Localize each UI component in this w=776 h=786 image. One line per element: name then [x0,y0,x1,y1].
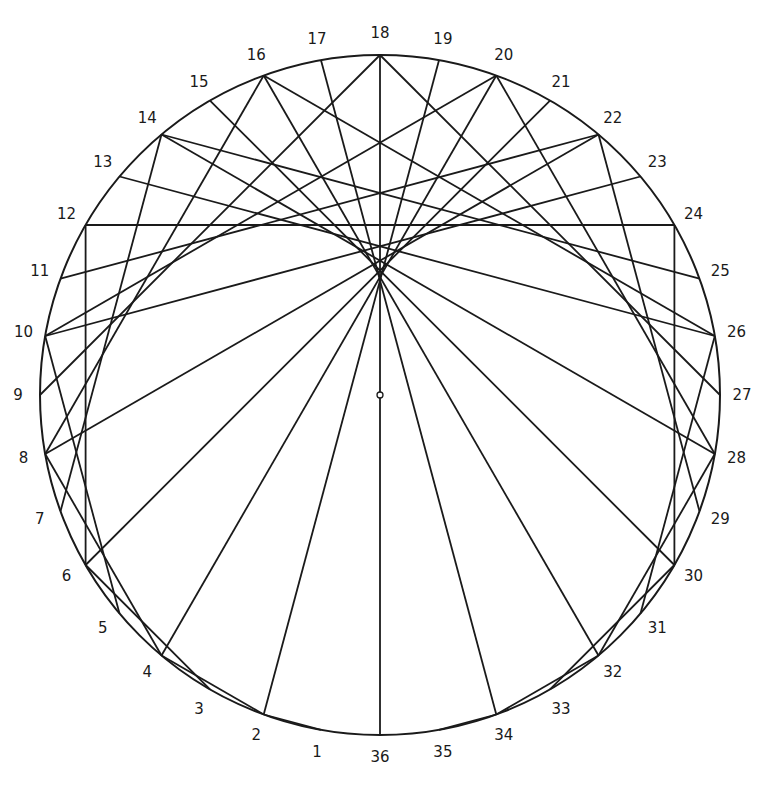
point-label-34: 34 [494,726,513,744]
point-label-9: 9 [13,386,23,404]
point-label-33: 33 [551,700,570,718]
point-label-26: 26 [727,323,746,341]
point-label-27: 27 [732,386,751,404]
point-label-3: 3 [194,700,204,718]
chord-29-22 [599,135,700,512]
point-label-8: 8 [19,449,29,467]
point-label-31: 31 [648,619,667,637]
point-label-21: 21 [551,73,570,91]
point-label-13: 13 [93,153,112,171]
chord-28-20 [496,76,715,455]
point-label-12: 12 [57,205,76,223]
chord-34-32 [496,656,598,715]
chord-13-26 [120,177,715,337]
point-label-19: 19 [433,30,452,48]
point-label-17: 17 [308,30,327,48]
point-label-32: 32 [603,663,622,681]
point-label-6: 6 [62,567,72,585]
point-label-7: 7 [35,510,45,528]
point-label-1: 1 [312,743,322,761]
chord-2-4 [162,656,264,715]
point-label-28: 28 [727,449,746,467]
point-label-10: 10 [14,323,33,341]
point-label-24: 24 [684,205,703,223]
point-label-16: 16 [247,46,266,64]
point-label-23: 23 [648,153,667,171]
point-label-11: 11 [30,262,49,280]
point-label-14: 14 [138,109,157,127]
point-label-15: 15 [189,73,208,91]
center-point-marker [377,392,383,398]
point-label-25: 25 [711,262,730,280]
point-label-36: 36 [370,748,389,766]
point-label-4: 4 [143,663,153,681]
point-label-5: 5 [98,619,108,637]
cardioid-chord-diagram: 1234567891011121314151617181920212223242… [0,0,776,786]
point-label-18: 18 [370,24,389,42]
chord-11-22 [61,135,599,279]
point-label-20: 20 [494,46,513,64]
point-label-35: 35 [433,743,452,761]
point-label-22: 22 [603,109,622,127]
point-label-2: 2 [251,726,261,744]
chord-8-16 [45,76,264,455]
point-label-29: 29 [711,510,730,528]
chord-23-10 [45,177,640,337]
point-label-30: 30 [684,567,703,585]
chord-25-14 [162,135,700,279]
